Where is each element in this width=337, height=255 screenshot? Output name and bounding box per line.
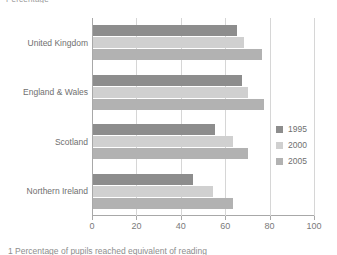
x-tick-label-60: 60 xyxy=(220,221,230,231)
legend-label: 1995 xyxy=(288,125,307,134)
legend-swatch-icon xyxy=(276,158,283,165)
bar-2005 xyxy=(93,99,264,110)
bar-2005 xyxy=(93,198,233,209)
legend-label: 2005 xyxy=(288,157,307,166)
bar-1995 xyxy=(93,124,215,135)
x-tick-label-40: 40 xyxy=(176,221,186,231)
category-label: Scotland xyxy=(4,137,88,147)
bar-1995 xyxy=(93,25,237,36)
figure-caption: 1 Percentage of pupils reached equivalen… xyxy=(8,246,207,255)
x-axis-tick-labels: 020406080100 xyxy=(92,221,322,235)
legend-swatch-icon xyxy=(276,126,283,133)
category-label: United Kingdom xyxy=(4,38,88,48)
category-label: England & Wales xyxy=(4,87,88,97)
x-tick-label-100: 100 xyxy=(306,221,321,231)
chart-legend: 199520002005 xyxy=(276,121,332,169)
plot-area xyxy=(92,18,314,216)
x-tick-label-80: 80 xyxy=(265,221,275,231)
bar-2000 xyxy=(93,186,213,197)
category-label: Northern Ireland xyxy=(4,186,88,196)
bar-2000 xyxy=(93,87,248,98)
gridline-100 xyxy=(314,18,315,216)
bar-group xyxy=(93,25,314,60)
bar-2005 xyxy=(93,148,248,159)
bar-group xyxy=(93,174,314,209)
legend-item-1995[interactable]: 1995 xyxy=(276,121,332,137)
x-tick-80 xyxy=(270,216,271,220)
category-axis-labels: United KingdomEngland & WalesScotlandNor… xyxy=(0,18,88,216)
bar-2000 xyxy=(93,37,244,48)
x-tick-100 xyxy=(314,216,315,220)
x-tick-60 xyxy=(225,216,226,220)
x-tick-label-0: 0 xyxy=(89,221,94,231)
bar-1995 xyxy=(93,174,193,185)
legend-label: 2000 xyxy=(288,141,307,150)
bar-2005 xyxy=(93,49,262,60)
x-tick-40 xyxy=(181,216,182,220)
top-axis-title: Percentage xyxy=(6,0,49,3)
x-tick-label-20: 20 xyxy=(131,221,141,231)
x-tick-20 xyxy=(136,216,137,220)
bar-2000 xyxy=(93,136,233,147)
bar-1995 xyxy=(93,75,242,86)
legend-item-2005[interactable]: 2005 xyxy=(276,153,332,169)
x-tick-0 xyxy=(92,216,93,220)
bar-group xyxy=(93,75,314,110)
legend-item-2000[interactable]: 2000 xyxy=(276,137,332,153)
x-axis-line xyxy=(92,215,314,216)
legend-swatch-icon xyxy=(276,142,283,149)
